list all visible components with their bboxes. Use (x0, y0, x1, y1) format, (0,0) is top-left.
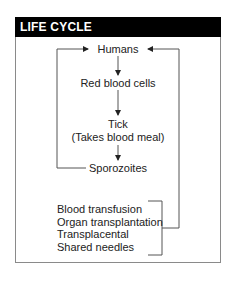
node-humans: Humans (98, 43, 139, 56)
route-item: Organ transplantation (57, 216, 163, 229)
route-item: Transplacental (57, 228, 163, 241)
node-tick-note: (Takes blood meal) (72, 131, 165, 144)
node-sporozoites: Sporozoites (89, 162, 147, 175)
other-routes-list: Blood transfusion Organ transplantation … (57, 203, 163, 253)
route-item: Shared needles (57, 241, 163, 254)
node-red-blood-cells: Red blood cells (80, 77, 155, 90)
node-tick: Tick (108, 118, 128, 131)
route-item: Blood transfusion (57, 203, 163, 216)
